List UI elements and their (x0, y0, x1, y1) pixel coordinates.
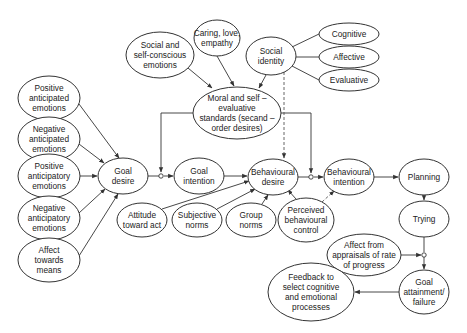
node-pos-anticipatory: Positiveanticipatoryemotions (18, 154, 80, 198)
node-goal-attainment: Goalattainment/failure (399, 270, 449, 314)
nodes-layer: PositiveanticipatedemotionsNegativeantic… (18, 20, 449, 321)
node-group-norms: Groupnorms (226, 203, 276, 237)
edge-pos-anticipated-to-goal-desire (79, 104, 119, 158)
moderator-junction-goal (159, 174, 163, 178)
node-label: Planning (408, 172, 441, 182)
node-goal-intention: Goalintention (174, 158, 224, 194)
edge-social-self-conscious-to-moral (188, 68, 212, 88)
edge-caring-to-moral (217, 56, 234, 86)
node-label: Cognitive (332, 29, 367, 39)
node-social-self-conscious: Social andself-consciousemotions (126, 32, 194, 78)
edge-social-identity-to-moral (259, 75, 266, 88)
node-label: Behaviouralintention (327, 167, 371, 187)
node-cognitive: Cognitive (319, 23, 379, 45)
node-label: Negativeanticipatedemotions (29, 124, 70, 154)
moderator-junction-behavioural (309, 175, 313, 179)
edge-pbc-to-behavioural-intention (322, 191, 334, 202)
node-neg-anticipatory: Negativeanticipatoryemotions (18, 196, 80, 240)
node-goal-desire: Goaldesire (98, 158, 148, 194)
edge-social-identity-to-evaluative (292, 66, 319, 80)
node-social-identity: Socialidentity (246, 37, 296, 75)
node-caring: Caring, love,empathy (194, 20, 241, 56)
node-label: Positiveanticipatedemotions (29, 83, 70, 113)
edge-affect-means-to-goal-desire (79, 194, 118, 256)
node-moral: Moral and self –evaluativestandards (sec… (193, 87, 281, 139)
node-label: Affecttowardsmeans (34, 245, 63, 275)
node-label: Trying (413, 214, 436, 224)
node-label: Goaldesire (112, 166, 135, 186)
node-behavioural-desire: Behaviouraldesire (248, 159, 298, 195)
node-label: Affective (333, 52, 365, 62)
node-affective: Affective (319, 46, 379, 68)
node-planning: Planning (399, 159, 449, 195)
node-label: Negativeanticipatoryemotions (28, 203, 71, 233)
node-label: Socialidentity (258, 46, 285, 66)
model-of-goal-directed-behaviour-diagram: PositiveanticipatedemotionsNegativeantic… (0, 0, 467, 333)
moderator-junction-attainment (422, 253, 426, 257)
node-feedback: Feedback toselect cognitiveand emotional… (268, 263, 354, 321)
edge-neg-anticipatory-to-goal-desire (79, 189, 105, 213)
node-pbc: Perceivedbehaviouralcontrol (278, 198, 334, 242)
node-evaluative: Evaluative (319, 69, 379, 91)
node-attitude: Attitudetoward act (117, 203, 167, 237)
node-label: Groupnorms (239, 210, 262, 230)
edge-pbc-to-behavioural-desire (288, 190, 296, 199)
node-affect-means: Affecttowardsmeans (18, 238, 80, 282)
node-behavioural-intention: Behaviouralintention (324, 159, 374, 195)
node-label: Evaluative (330, 75, 369, 85)
edge-social-identity-to-cognitive (292, 34, 319, 47)
node-trying: Trying (399, 201, 449, 237)
node-subjective-norms: Subjectivenorms (172, 203, 222, 237)
node-pos-anticipated: Positiveanticipatedemotions (18, 76, 80, 120)
edge-neg-anticipated-to-goal-desire (79, 144, 104, 163)
edge-group-norms-to-behavioural-desire (262, 195, 268, 204)
node-label: Attitudetoward act (123, 210, 162, 230)
